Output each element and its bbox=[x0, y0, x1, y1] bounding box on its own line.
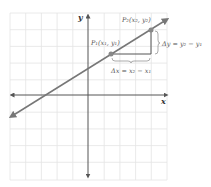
slope-diagram: x y P₁(x₁, y₁) P₂(x₂, y₂) Δx = x₂ − x₁ Δ… bbox=[0, 0, 211, 187]
point-p2 bbox=[149, 28, 154, 33]
point-p1 bbox=[109, 52, 114, 57]
delta-y-brace bbox=[155, 31, 160, 54]
y-axis-label: y bbox=[77, 12, 84, 22]
delta-x-brace bbox=[112, 58, 150, 63]
delta-x-label: Δx = x₂ − x₁ bbox=[110, 67, 151, 75]
point-p2-label: P₂(x₂, y₂) bbox=[121, 16, 151, 24]
delta-y-label: Δy = y₂ − y₁ bbox=[161, 40, 202, 48]
x-axis-label: x bbox=[160, 96, 166, 106]
point-p1-label: P₁(x₁, y₁) bbox=[90, 39, 120, 47]
